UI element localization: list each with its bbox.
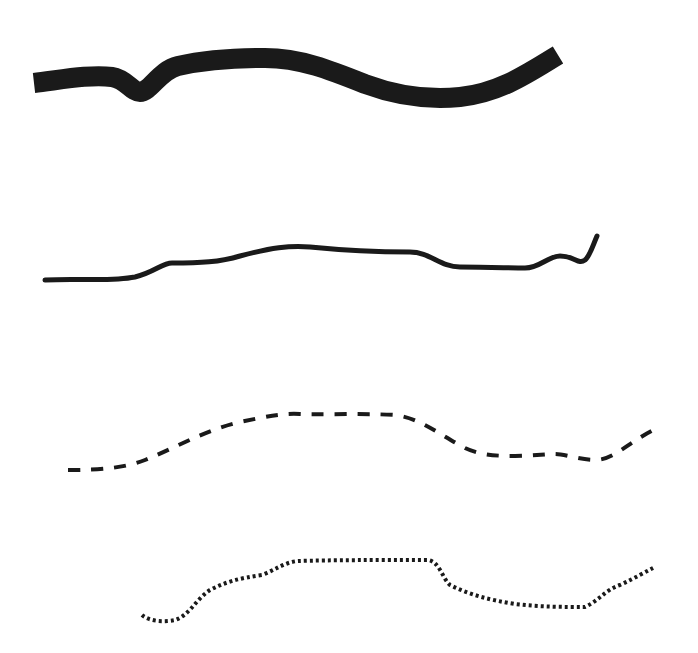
- solid-line: [45, 236, 597, 280]
- diagram-svg: [0, 0, 698, 653]
- dashed-line: [68, 414, 660, 470]
- dotted-line: [142, 560, 655, 621]
- line-styles-diagram: [0, 0, 698, 653]
- thick-line: [34, 55, 558, 98]
